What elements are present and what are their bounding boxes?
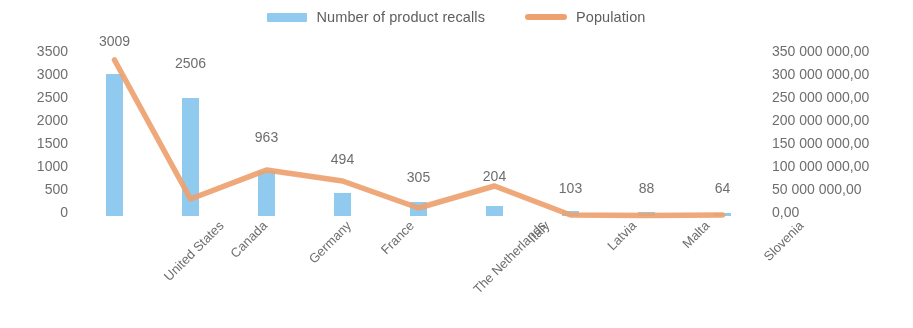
y-axis-left-tick: 1000 — [37, 159, 68, 173]
data-label-malta: 88 — [612, 181, 682, 195]
x-axis-label-latvia: Latvia — [604, 218, 639, 253]
y-axis-left-tick: 0 — [60, 205, 68, 219]
data-label-germany: 963 — [232, 130, 302, 144]
legend-item-product-recalls[interactable]: Number of product recalls — [267, 9, 485, 25]
data-label-italy: 204 — [460, 169, 530, 183]
x-axis-label-slovenia: Slovenia — [761, 218, 807, 264]
x-axis-label-malta: Malta — [679, 218, 712, 251]
data-label-the-netherlands: 305 — [384, 170, 454, 184]
y-axis-left-tick: 2500 — [37, 90, 68, 104]
data-label-france: 494 — [308, 152, 378, 166]
y-axis-right-tick: 350 000 000,00 — [772, 44, 869, 58]
data-label-united-states: 3009 — [80, 34, 150, 48]
legend-label-product-recalls: Number of product recalls — [316, 9, 485, 25]
y-axis-right-tick: 250 000 000,00 — [772, 90, 869, 104]
x-axis-label-canada: Canada — [227, 218, 270, 261]
x-axis-categories: United States Canada Germany France The … — [78, 218, 770, 318]
legend-label-population: Population — [576, 9, 646, 25]
combo-chart: Number of product recalls Population 350… — [0, 0, 913, 328]
data-label-slovenia: 64 — [688, 181, 758, 195]
y-axis-left-tick: 1500 — [37, 136, 68, 150]
x-axis-label-france: France — [378, 218, 417, 257]
bar-swatch-icon — [267, 13, 307, 22]
data-label-canada: 2506 — [156, 56, 226, 70]
x-axis-label-germany: Germany — [306, 218, 354, 266]
y-axis-left-tick: 2000 — [37, 113, 68, 127]
line-swatch-icon — [525, 14, 567, 20]
data-label-latvia: 103 — [536, 181, 606, 195]
y-axis-right-tick: 100 000 000,00 — [772, 159, 869, 173]
x-axis-label-united-states: United States — [161, 218, 227, 284]
y-axis-right-tick: 150 000 000,00 — [772, 136, 869, 150]
y-axis-right-tick: 200 000 000,00 — [772, 113, 869, 127]
plot-area: 3009 2506 963 494 305 204 103 88 64 — [78, 44, 770, 216]
y-axis-right-tick: 50 000 000,00 — [772, 182, 862, 196]
y-axis-right-tick: 300 000 000,00 — [772, 67, 869, 81]
chart-legend: Number of product recalls Population — [0, 9, 913, 25]
y-axis-left-tick: 500 — [45, 182, 68, 196]
y-axis-left-tick: 3500 — [37, 44, 68, 58]
legend-item-population[interactable]: Population — [525, 9, 646, 25]
y-axis-left-tick: 3000 — [37, 67, 68, 81]
